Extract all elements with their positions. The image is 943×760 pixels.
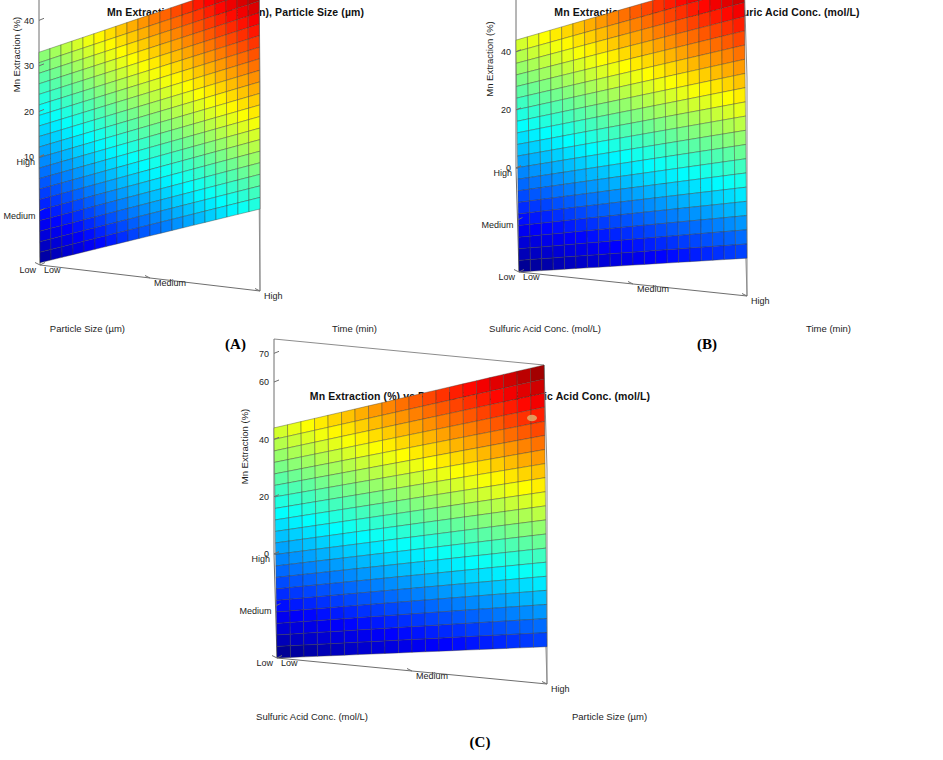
right-axis-tick-label: Low [523,272,540,282]
right-axis-label: Time (min) [806,323,851,334]
left-axis-label: Sulfuric Acid Conc. (mol/L) [489,323,601,334]
left-axis-tick-label: Low [498,272,515,282]
panel-c-svg: 020406070Mn Extraction (%)HighMediumLowS… [200,382,760,760]
panel-a-svg: 1020304050Mn Extraction (%)HighMediumLow… [0,0,471,380]
right-axis-tick-label: High [551,684,570,694]
left-axis-label: Sulfuric Acid Conc. (mol/L) [256,711,368,722]
panel-b-plot: 020406070Mn Extraction (%)HighMediumLowS… [471,0,943,380]
left-axis-tick-label: Low [256,658,273,668]
right-axis-label: Time (min) [332,323,377,334]
panel-b: Mn Extraction (%) vs Time (min), Sulfuri… [471,0,943,380]
right-axis-label: Particle Size (µm) [572,711,647,722]
left-axis-tick-label: High [16,157,35,167]
z-tick-label: 70 [259,349,269,359]
left-axis-tick-label: Medium [481,220,513,230]
z-tick-label: 20 [259,492,269,502]
z-tick-label: 20 [24,107,34,117]
right-axis-tick-label: Low [44,265,61,275]
panel-b-svg: 020406070Mn Extraction (%)HighMediumLowS… [471,0,943,380]
z-axis-label: Mn Extraction (%) [239,409,250,485]
response-surface [39,0,260,263]
response-surface [516,0,747,272]
z-axis-label: Mn Extraction (%) [11,17,22,93]
right-axis-tick-label: High [264,291,283,301]
panel-b-letter: (B) [471,336,943,353]
z-axis-label: Mn Extraction (%) [484,21,495,97]
right-axis-tick-label: Medium [637,284,669,294]
right-axis-tick-label: Medium [416,671,448,681]
left-axis-tick-label: Medium [3,211,35,221]
z-tick-label: 40 [501,47,511,57]
panel-a: Mn Extraction (%) vs Time (min), Particl… [0,0,471,380]
right-axis-tick-label: High [751,296,770,306]
left-axis-label: Particle Size (µm) [50,323,125,334]
panel-c-letter: (C) [200,734,760,751]
scan-artifact [527,415,537,421]
z-tick-label: 20 [501,105,511,115]
left-axis-tick-label: High [493,168,512,178]
left-axis-tick-label: Medium [239,606,271,616]
z-tick-label: 30 [24,61,34,71]
response-surface [274,365,547,658]
left-axis-tick-label: Low [19,265,36,275]
figure-canvas: Mn Extraction (%) vs Time (min), Particl… [0,0,943,760]
z-tick-label: 60 [259,377,269,387]
z-tick-label: 40 [24,16,34,26]
panel-c-plot: 020406070Mn Extraction (%)HighMediumLowS… [200,382,760,760]
panel-c: Mn Extraction (%) vs Particle Size (µm),… [200,382,760,760]
panel-a-plot: 1020304050Mn Extraction (%)HighMediumLow… [0,0,471,380]
left-axis-tick-label: High [251,554,270,564]
z-tick-label: 40 [259,435,269,445]
right-axis-tick-label: Medium [154,278,186,288]
z-axis: 020406070Mn Extraction (%) [484,0,521,173]
panel-a-letter: (A) [0,336,471,353]
right-axis-tick-label: Low [281,658,298,668]
z-axis: 020406070Mn Extraction (%) [239,349,279,560]
